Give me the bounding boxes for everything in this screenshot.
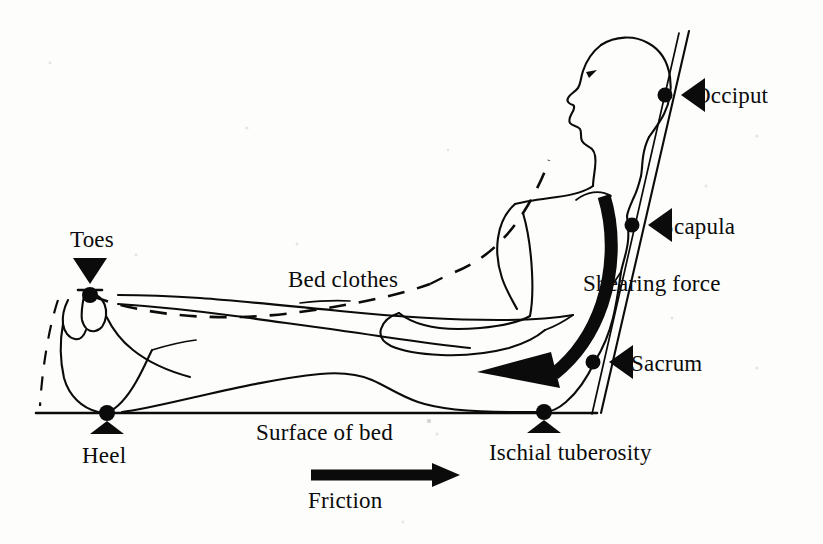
label-toes: Toes — [70, 228, 114, 251]
pressure-point-toes — [73, 258, 107, 303]
label-friction: Friction — [308, 489, 382, 512]
diagram-canvas: .ln { fill:none; stroke:#0b0b0b; stroke-… — [0, 0, 823, 544]
patient-foot — [61, 296, 196, 413]
label-ischial-tuberosity: Ischial tuberosity — [489, 441, 652, 464]
label-bed-clothes: Bed clothes — [288, 268, 398, 291]
label-occiput: Occiput — [694, 84, 768, 107]
patient-legs — [118, 295, 573, 412]
pressure-point-heel — [90, 405, 124, 434]
patient-head — [515, 38, 671, 216]
label-heel: Heel — [82, 444, 126, 467]
label-shearing-force: Shearing force — [583, 272, 721, 295]
label-scapula: Scapula — [661, 215, 735, 238]
patient-arm — [380, 213, 573, 355]
label-surface-of-bed: Surface of bed — [256, 421, 393, 444]
friction-arrow — [311, 463, 460, 487]
label-sacrum: Sacrum — [631, 352, 702, 375]
